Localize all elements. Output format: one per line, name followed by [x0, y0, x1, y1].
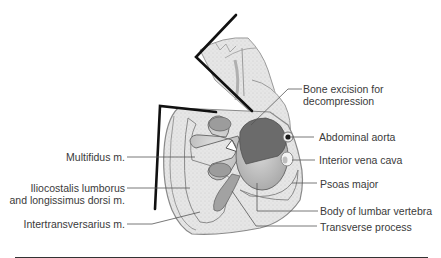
label-iliocostalis-line2: and longissimus dorsi m. — [9, 194, 125, 206]
label-iliocostalis: Iliocostalis lumborus and longissimus do… — [9, 182, 125, 206]
label-inferior-vena-cava: Interior vena cava — [319, 154, 402, 166]
label-body-lumbar-vertebra: Body of lumbar vertebra — [320, 205, 432, 217]
label-multifidus: Multifidus m. — [66, 151, 125, 163]
label-transverse-process: Transverse process — [320, 221, 412, 233]
label-bone-excision-line1: Bone excision for — [303, 83, 384, 95]
label-iliocostalis-line1: Iliocostalis lumborus — [9, 182, 125, 194]
lower-tissue-section — [164, 108, 303, 234]
label-bone-excision-line2: decompression — [303, 95, 384, 107]
label-intertransversarius: Intertransversarius m. — [23, 218, 125, 230]
label-bone-excision: Bone excision for decompression — [303, 83, 384, 107]
label-psoas-major: Psoas major — [320, 178, 378, 190]
label-abdominal-aorta: Abdominal aorta — [319, 131, 395, 143]
